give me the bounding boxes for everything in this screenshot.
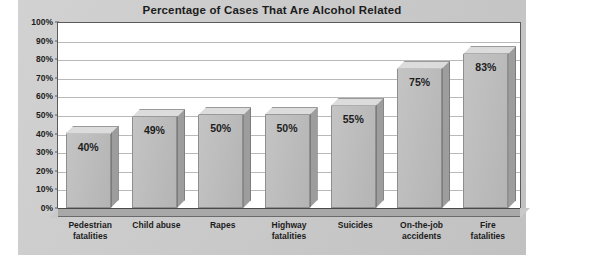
x-axis-category-line: On-the-job bbox=[388, 220, 454, 231]
bar-front-face bbox=[397, 69, 442, 209]
bar[interactable]: 40% bbox=[66, 126, 119, 208]
bar[interactable]: 50% bbox=[198, 107, 251, 208]
x-axis-category-label: Highwayfatalities bbox=[256, 220, 322, 242]
bar[interactable]: 50% bbox=[265, 107, 318, 208]
x-axis-category-line: fatalities bbox=[57, 231, 123, 242]
y-axis-tick-label: 40% bbox=[36, 129, 53, 139]
x-axis: PedestrianfatalitiesChild abuseRapesHigh… bbox=[57, 220, 521, 252]
chart-title: Percentage of Cases That Are Alcohol Rel… bbox=[18, 4, 526, 16]
x-axis-category-line: Child abuse bbox=[123, 220, 189, 231]
bar-value-label: 40% bbox=[66, 141, 111, 153]
bar-side-face bbox=[111, 126, 119, 208]
bar[interactable]: 75% bbox=[397, 61, 450, 209]
x-axis-category-line: Pedestrian bbox=[57, 220, 123, 231]
bar-top-face bbox=[265, 107, 318, 115]
y-axis-tick-label: 80% bbox=[36, 54, 53, 64]
bar-side-face bbox=[376, 98, 384, 208]
bar[interactable]: 55% bbox=[331, 98, 384, 208]
x-axis-category-line: fatalities bbox=[455, 231, 521, 242]
bar-value-label: 50% bbox=[198, 122, 243, 134]
y-axis-tick-label: 70% bbox=[36, 73, 53, 83]
x-axis-category-line: Rapes bbox=[190, 220, 256, 231]
bar-side-face bbox=[310, 107, 318, 208]
y-axis-tick-label: 30% bbox=[36, 147, 53, 157]
bar-value-label: 49% bbox=[132, 124, 177, 136]
x-axis-category-line: Suicides bbox=[322, 220, 388, 231]
bar-side-face bbox=[177, 109, 185, 208]
bar[interactable]: 83% bbox=[463, 46, 516, 208]
bar[interactable]: 49% bbox=[132, 109, 185, 208]
y-axis-tick-label: 10% bbox=[36, 184, 53, 194]
bar-front-face bbox=[463, 54, 508, 208]
y-axis-tick-label: 20% bbox=[36, 166, 53, 176]
x-axis-category-label: On-the-jobaccidents bbox=[388, 220, 454, 242]
x-axis-category-label: Firefatalities bbox=[455, 220, 521, 242]
y-axis: 0%10%20%30%40%50%60%70%80%90%100% bbox=[18, 22, 55, 208]
bar-value-label: 55% bbox=[331, 113, 376, 125]
bar-side-face bbox=[442, 61, 450, 209]
y-axis-tick-label: 100% bbox=[31, 17, 53, 27]
x-axis-category-label: Child abuse bbox=[123, 220, 189, 231]
bar-value-label: 83% bbox=[463, 61, 508, 73]
bar-top-face bbox=[66, 126, 119, 134]
x-axis-category-line: accidents bbox=[388, 231, 454, 242]
x-axis-category-label: Rapes bbox=[190, 220, 256, 231]
bar-top-face bbox=[132, 109, 185, 117]
chart-figure: Percentage of Cases That Are Alcohol Rel… bbox=[18, 0, 526, 255]
bar-value-label: 50% bbox=[265, 122, 310, 134]
bar-value-label: 75% bbox=[397, 76, 442, 88]
bar-top-face bbox=[331, 98, 384, 106]
x-axis-category-line: Fire bbox=[455, 220, 521, 231]
y-axis-tick-label: 90% bbox=[36, 36, 53, 46]
bar-side-face bbox=[243, 107, 251, 208]
y-axis-tick-label: 0% bbox=[41, 203, 53, 213]
x-axis-category-line: fatalities bbox=[256, 231, 322, 242]
bar-top-face bbox=[463, 46, 516, 54]
bar-side-face bbox=[508, 46, 516, 208]
bar-top-face bbox=[397, 61, 450, 69]
chart-floor bbox=[57, 208, 521, 217]
chart-floor-right-bevel bbox=[520, 208, 530, 218]
y-axis-tick-label: 50% bbox=[36, 110, 53, 120]
x-axis-category-label: Pedestrianfatalities bbox=[57, 220, 123, 242]
x-axis-category-label: Suicides bbox=[322, 220, 388, 231]
y-axis-tick-label: 60% bbox=[36, 91, 53, 101]
x-axis-category-line: Highway bbox=[256, 220, 322, 231]
bar-top-face bbox=[198, 107, 251, 115]
bars-layer: 40%49%50%50%55%75%83% bbox=[57, 22, 521, 208]
